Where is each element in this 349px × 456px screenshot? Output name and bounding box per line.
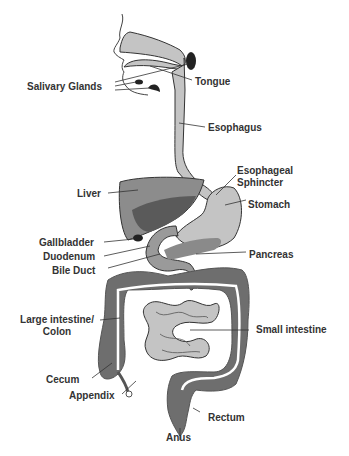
label-stomach: Stomach [248,199,290,210]
label-anus: Anus [166,432,191,443]
small-intestine-shape [143,300,219,360]
label-gallbladder: Gallbladder [39,237,94,248]
label-cecum: Cecum [46,374,79,385]
salivary-gland-upper [186,52,196,70]
salivary-gland-mid [135,80,143,85]
label-esophageal-sphincter-line1: Esophageal [237,165,293,176]
digestive-system-diagram: Salivary Glands Tongue Esophagus Esophag… [0,0,349,456]
label-rectum: Rectum [208,412,245,423]
label-duodenum: Duodenum [43,251,95,262]
label-large-intestine-line1: Large intestine/ [12,314,102,325]
label-salivary-glands: Salivary Glands [27,81,102,92]
label-bile-duct: Bile Duct [52,265,95,276]
gallbladder-shape [133,235,143,242]
label-large-intestine-line2: Colon [12,326,102,337]
appendix-shape [118,372,128,392]
label-tongue: Tongue [195,76,230,87]
label-esophageal-sphincter-line2: Sphincter [237,177,283,188]
anatomy-illustration [0,0,349,456]
label-small-intestine: Small intestine [256,324,327,335]
label-pancreas: Pancreas [249,249,293,260]
label-liver: Liver [77,188,101,199]
label-esophagus: Esophagus [208,122,262,133]
appendix-tip [126,391,132,397]
label-appendix: Appendix [69,390,115,401]
pancreas-shape [164,238,221,260]
